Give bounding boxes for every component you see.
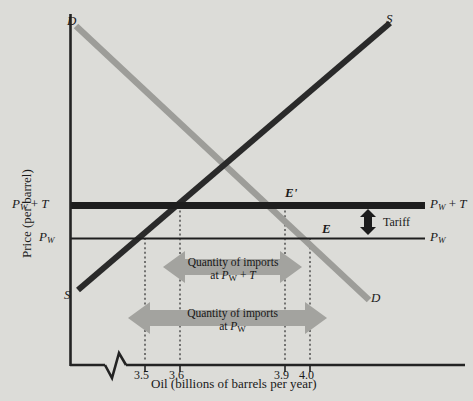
price-with-tariff-label-right: PW + T	[430, 197, 467, 212]
equilibrium-label-e: E	[322, 222, 331, 237]
tariff-arrow	[360, 209, 376, 235]
x-axis	[70, 353, 465, 378]
tariff-label: Tariff	[383, 216, 410, 230]
world-price-label-left: PW	[39, 230, 54, 245]
y-axis-title: Price (per barrel)	[20, 169, 35, 258]
x-tick-label-3-5: 3.5	[134, 369, 149, 383]
x-tick-label-3-9: 3.9	[274, 369, 289, 383]
chart-canvas	[0, 0, 473, 401]
imports-world-price-line2: at PW	[180, 320, 285, 333]
tariff-diagram-figure: Price (per barrel) Oil (billions of barr…	[0, 0, 473, 401]
x-tick-label-4-0: 4.0	[299, 369, 314, 383]
imports-with-tariff-label: Quantity of imports at PW + T	[185, 256, 281, 282]
demand-curve-label-bottom: D	[371, 291, 380, 306]
imports-with-tariff-line1: Quantity of imports	[185, 256, 281, 269]
imports-with-tariff-line2: at PW + T	[185, 269, 281, 282]
supply-curve	[78, 23, 390, 290]
price-with-tariff-label-left: PW + T	[12, 197, 49, 212]
supply-curve-label-bottom: S	[64, 288, 71, 303]
demand-curve-label-top: D	[67, 14, 76, 29]
x-tick-label-3-6: 3.6	[169, 369, 184, 383]
guide-lines	[145, 206, 310, 362]
supply-curve-label-top: S	[386, 12, 393, 27]
imports-world-price-label: Quantity of imports at PW	[180, 307, 285, 333]
imports-world-price-line1: Quantity of imports	[180, 307, 285, 320]
equilibrium-label-e-prime: E'	[285, 186, 297, 201]
world-price-label-right: PW	[430, 230, 445, 245]
